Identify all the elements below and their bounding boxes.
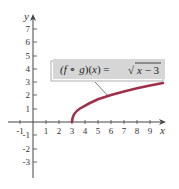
svg-text:1: 1 — [44, 126, 49, 136]
y-tick-labels: 7 6 5 4 3 2 1 -1 -2 -3 — [23, 24, 31, 167]
annotation-pointer — [95, 82, 109, 97]
formula-radicand: x − 3 — [136, 64, 160, 76]
x-tick-labels: -1 1 2 3 4 5 6 7 8 9 — [16, 126, 153, 136]
svg-text:3: 3 — [70, 126, 75, 136]
radical-icon: √ — [128, 64, 135, 76]
formula-label: (f ∘ g)(x) = — [60, 63, 110, 76]
svg-text:-3: -3 — [23, 157, 31, 167]
y-ticks — [33, 29, 37, 162]
svg-text:3: 3 — [26, 77, 31, 87]
svg-text:6: 6 — [109, 126, 114, 136]
svg-text:4: 4 — [83, 126, 88, 136]
svg-text:7: 7 — [26, 24, 31, 34]
svg-text:8: 8 — [135, 126, 140, 136]
svg-text:5: 5 — [26, 51, 31, 61]
svg-text:6: 6 — [26, 37, 31, 47]
svg-text:-2: -2 — [23, 144, 31, 154]
svg-text:2: 2 — [57, 126, 62, 136]
svg-text:1: 1 — [26, 104, 31, 114]
sqrt-curve — [72, 83, 163, 122]
svg-text:2: 2 — [26, 90, 31, 100]
function-graph: -1 1 2 3 4 5 6 7 8 9 7 6 5 4 3 2 1 -1 -2… — [0, 0, 179, 189]
svg-text:5: 5 — [96, 126, 101, 136]
x-axis-label: x — [159, 124, 165, 136]
svg-text:7: 7 — [122, 126, 127, 136]
svg-text:-1: -1 — [23, 130, 31, 140]
y-axis-label: y — [23, 10, 29, 22]
svg-text:9: 9 — [148, 126, 153, 136]
svg-text:4: 4 — [26, 64, 31, 74]
